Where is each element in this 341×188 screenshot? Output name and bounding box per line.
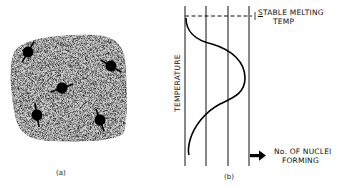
arrow-icon <box>250 151 266 161</box>
stable-melting-label-line1: STABLE MELTING <box>258 8 324 17</box>
nuclei-label-line2: FORMING <box>282 156 319 165</box>
nucleation-curve <box>186 18 245 155</box>
caption-a: (a) <box>56 169 66 177</box>
vertical-gridlines <box>185 6 249 166</box>
y-axis-label: TEMPERATURE <box>173 54 182 112</box>
nuclei-label-line1: No. OF NUCLEI <box>274 147 332 156</box>
caption-b: (b) <box>224 173 234 181</box>
stable-melting-rest: TABLE MELTING <box>263 8 324 17</box>
stable-melting-label-line2: TEMP <box>273 17 294 26</box>
